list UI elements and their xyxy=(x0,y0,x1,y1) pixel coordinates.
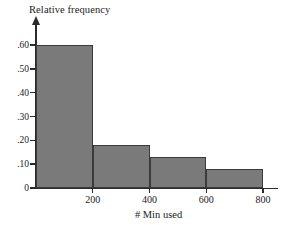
plot-area xyxy=(36,45,263,188)
x-axis-title: # Min used xyxy=(0,209,291,220)
histogram-bar xyxy=(36,45,93,188)
histogram-bar xyxy=(206,169,263,188)
x-axis-tick-label: 800 xyxy=(243,194,283,205)
y-axis-tick-label: .60 xyxy=(5,40,29,50)
y-axis-tick-label: .30 xyxy=(5,112,29,122)
y-axis-tick-label: .10 xyxy=(5,159,29,169)
x-axis-tick xyxy=(92,188,93,193)
y-axis-tick-label: .20 xyxy=(5,135,29,145)
x-axis-tick xyxy=(206,188,207,193)
x-axis-tick-label: 200 xyxy=(73,194,113,205)
histogram-bar xyxy=(93,145,150,188)
y-axis-tick-label: .50 xyxy=(5,64,29,74)
x-axis-tick xyxy=(262,188,263,193)
y-axis-tick-label: 0 xyxy=(5,183,29,193)
x-axis-tick-label: 400 xyxy=(130,194,170,205)
y-axis-title: Relative frequency xyxy=(29,4,110,15)
histogram-figure: Relative frequency 0.10.20.30.40.50.60 2… xyxy=(0,0,291,228)
y-axis-tick-label: .40 xyxy=(5,88,29,98)
x-axis-tick-label: 600 xyxy=(186,194,226,205)
x-axis-title-text: # Min used xyxy=(135,209,182,220)
histogram-bar xyxy=(150,157,207,188)
x-axis-tick xyxy=(149,188,150,193)
